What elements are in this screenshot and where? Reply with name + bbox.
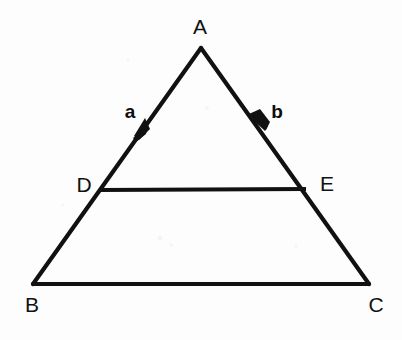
segment-de xyxy=(99,189,306,190)
segment-ac xyxy=(201,48,369,284)
vertex-label-a: A xyxy=(193,15,207,38)
vertex-label-c: C xyxy=(368,293,383,316)
diagram-canvas: Triangle ABC with midsegment DE and vect… xyxy=(0,0,402,340)
scan-noise-group xyxy=(62,59,298,248)
vertex-label-b: B xyxy=(25,293,39,316)
vector-label-b: b xyxy=(271,101,283,122)
segment-ab xyxy=(33,48,201,284)
vertex-label-e: E xyxy=(320,172,334,195)
triangle-vector-diagram: Triangle ABC with midsegment DE and vect… xyxy=(0,0,402,340)
vector-label-a: a xyxy=(125,101,136,122)
vertex-label-d: D xyxy=(76,173,91,196)
